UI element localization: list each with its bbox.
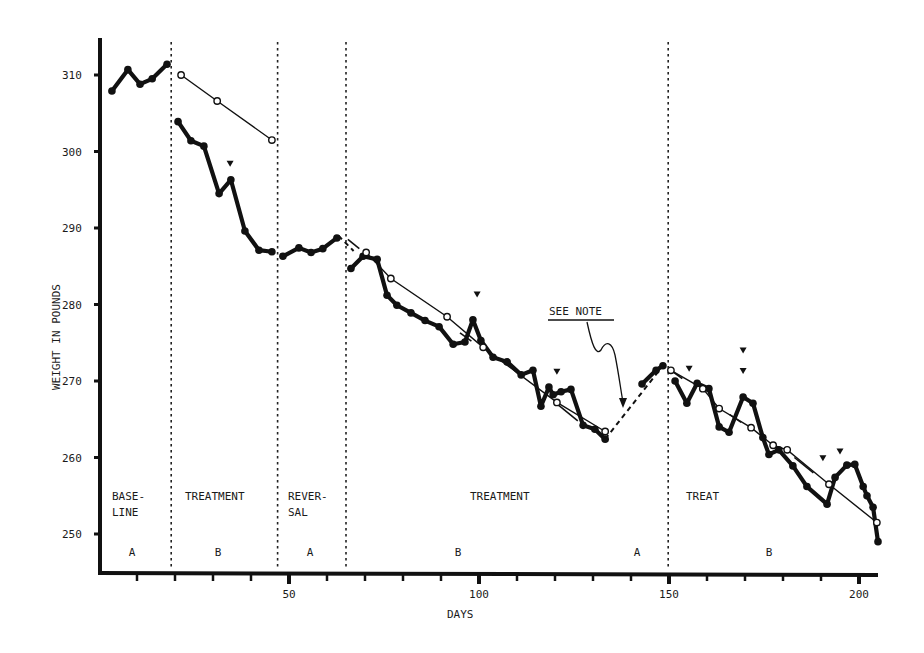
- phase-label: TREATMENT: [470, 490, 530, 503]
- open-circle-point: [700, 385, 706, 391]
- triangle-marker-icon: [740, 368, 747, 374]
- open-circle-point: [214, 98, 220, 104]
- filled-point: [215, 190, 223, 198]
- filled-point: [859, 483, 867, 491]
- triangle-marker-icon: [819, 455, 826, 461]
- filled-point: [601, 435, 609, 443]
- phase-label: TREAT: [686, 490, 719, 503]
- trend-line: [366, 252, 605, 431]
- triangle-marker-icon: [740, 347, 747, 353]
- dashed-connector: [605, 366, 663, 439]
- filled-point: [163, 60, 171, 68]
- filled-point: [545, 383, 553, 391]
- open-circle-point: [269, 137, 275, 143]
- series-solid-thick-filled-dots: [638, 362, 666, 388]
- filled-point: [393, 301, 401, 309]
- filled-point: [851, 461, 859, 469]
- filled-point: [187, 137, 195, 145]
- filled-point: [831, 474, 839, 482]
- filled-point: [435, 323, 443, 331]
- phase-label: SAL: [288, 506, 308, 519]
- filled-point: [659, 362, 667, 370]
- filled-point: [124, 66, 132, 74]
- filled-point: [108, 87, 116, 95]
- series-thin-open-circles: [363, 249, 608, 434]
- filled-point: [295, 244, 303, 252]
- line-chart: 250260270280290300310 50100150200 WEIGHT…: [0, 0, 924, 653]
- open-circle-point: [554, 399, 560, 405]
- x-tick-label: 50: [282, 588, 295, 601]
- phase-label: REVER-: [288, 490, 328, 503]
- open-circle-point: [770, 442, 776, 448]
- y-axis-ticks: 250260270280290300310: [62, 69, 101, 541]
- arrowhead-icon: [619, 398, 627, 408]
- series-solid-thick-filled-dots: [108, 60, 171, 94]
- filled-point: [227, 176, 235, 184]
- x-axis-ticks: 50100150200: [137, 574, 869, 601]
- filled-point: [652, 366, 660, 374]
- filled-point: [469, 316, 477, 324]
- triangle-marker-icon: [837, 448, 844, 454]
- filled-point: [449, 340, 457, 348]
- filled-point: [333, 234, 341, 242]
- filled-point: [579, 422, 587, 430]
- filled-point: [136, 80, 144, 88]
- filled-point: [268, 248, 276, 256]
- filled-point: [461, 338, 469, 346]
- filled-point: [567, 386, 575, 394]
- series-thin-open-circles: [178, 72, 275, 143]
- filled-point: [200, 142, 208, 150]
- phase-code: B: [455, 546, 462, 559]
- open-circle-point: [874, 519, 880, 525]
- filled-point: [383, 292, 391, 300]
- triangle-marker-icon: [474, 292, 481, 298]
- filled-point: [148, 75, 156, 83]
- y-tick-label: 250: [62, 528, 82, 541]
- trend-line: [181, 75, 272, 140]
- filled-point: [347, 265, 355, 273]
- filled-point: [803, 483, 811, 491]
- filled-point: [869, 503, 877, 511]
- filled-point: [241, 227, 249, 235]
- filled-point: [319, 245, 327, 253]
- x-tick-label: 100: [469, 588, 489, 601]
- filled-point: [537, 402, 545, 410]
- filled-point: [874, 538, 882, 546]
- open-circle-point: [784, 447, 790, 453]
- triangle-marker-icon: [686, 366, 693, 372]
- filled-point: [407, 309, 415, 317]
- filled-point: [765, 451, 773, 459]
- open-circle-point: [748, 424, 754, 430]
- phase-code: B: [766, 546, 773, 559]
- y-tick-label: 300: [62, 146, 82, 159]
- series-solid-thick-filled-dots: [279, 234, 341, 260]
- y-tick-label: 290: [62, 222, 82, 235]
- filled-point: [683, 399, 691, 407]
- dashed-connectors: [338, 236, 813, 473]
- filled-point: [421, 317, 429, 325]
- open-circle-point: [668, 367, 674, 373]
- x-axis: [98, 573, 878, 575]
- y-axis-label: WEIGHT IN POUNDS: [50, 284, 63, 390]
- x-axis-label: DAYS: [447, 608, 474, 621]
- filled-point: [638, 380, 646, 388]
- open-circle-point: [480, 344, 486, 350]
- phase-code: A: [307, 546, 314, 559]
- filled-point: [789, 462, 797, 470]
- see-note-annotation: SEE NOTE: [549, 305, 602, 318]
- phase-label: LINE: [112, 506, 139, 519]
- phase-code: A: [634, 546, 641, 559]
- open-circle-point: [363, 249, 369, 255]
- filled-point: [529, 366, 537, 374]
- filled-point: [174, 118, 182, 126]
- filled-point: [823, 500, 831, 508]
- phase-code: B: [215, 546, 222, 559]
- open-circle-point: [178, 72, 184, 78]
- triangle-marker-icon: [227, 161, 234, 167]
- filled-point: [557, 388, 565, 396]
- filled-point: [279, 253, 287, 261]
- trend-dash: [348, 239, 359, 248]
- filled-point: [739, 393, 747, 401]
- annotation-arrow: [587, 322, 623, 402]
- series-solid-thick-filled-dots: [671, 377, 882, 545]
